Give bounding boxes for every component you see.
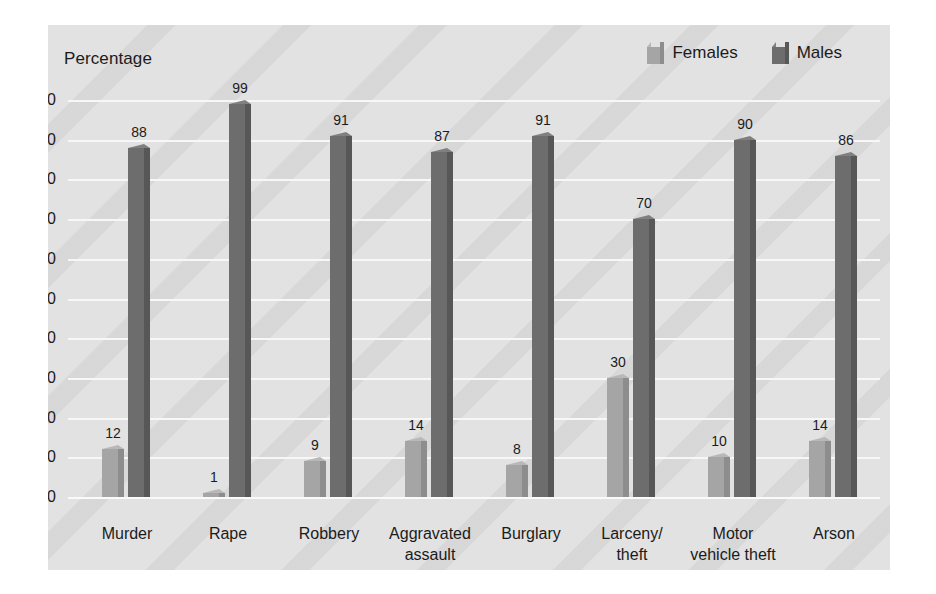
bar-value-label: 88 bbox=[119, 124, 159, 140]
bar-value-label: 14 bbox=[800, 417, 840, 433]
plot-area: 10090807060504030201001288Murder199Rape9… bbox=[48, 25, 890, 570]
bar-value-label: 30 bbox=[598, 354, 638, 370]
bar-males-0[interactable] bbox=[128, 148, 144, 497]
chart-panel: Percentage FemalesMales 1009080706050403… bbox=[48, 25, 890, 570]
gridline bbox=[68, 299, 880, 301]
bar-value-label: 90 bbox=[725, 116, 765, 132]
y-axis-tick-label: 10 bbox=[48, 448, 56, 466]
bar-females-3[interactable] bbox=[405, 441, 421, 497]
gridline bbox=[68, 457, 880, 459]
x-axis-label-7: Arson bbox=[772, 523, 890, 544]
gridline bbox=[68, 378, 880, 380]
bar-value-label: 8 bbox=[497, 441, 537, 457]
x-axis-label-line: vehicle theft bbox=[671, 544, 795, 565]
bar-females-2[interactable] bbox=[304, 461, 320, 497]
bar-value-label: 70 bbox=[624, 195, 664, 211]
y-axis-tick-label: 90 bbox=[48, 131, 56, 149]
bar-value-label: 1 bbox=[194, 469, 234, 485]
x-axis-label-line: assault bbox=[368, 544, 492, 565]
gridline bbox=[68, 219, 880, 221]
gridline bbox=[68, 140, 880, 142]
y-axis-tick-label: 20 bbox=[48, 409, 56, 427]
bar-value-label: 91 bbox=[321, 112, 361, 128]
bar-males-7[interactable] bbox=[835, 156, 851, 497]
y-axis-tick-label: 60 bbox=[48, 250, 56, 268]
bar-males-4[interactable] bbox=[532, 136, 548, 497]
y-axis-tick-label: 100 bbox=[48, 91, 56, 109]
y-axis-tick-label: 0 bbox=[48, 488, 56, 506]
bar-females-7[interactable] bbox=[809, 441, 825, 497]
bar-males-6[interactable] bbox=[734, 140, 750, 497]
bar-females-5[interactable] bbox=[607, 378, 623, 497]
bar-value-label: 99 bbox=[220, 80, 260, 96]
bar-females-4[interactable] bbox=[506, 465, 522, 497]
bar-males-1[interactable] bbox=[229, 104, 245, 497]
gridline bbox=[68, 259, 880, 261]
axis-baseline bbox=[68, 497, 880, 499]
bar-females-1[interactable] bbox=[203, 493, 219, 497]
chart-page: Percentage FemalesMales 1009080706050403… bbox=[0, 0, 936, 594]
bar-value-label: 86 bbox=[826, 132, 866, 148]
y-axis-tick-label: 50 bbox=[48, 290, 56, 308]
y-axis-tick-label: 70 bbox=[48, 210, 56, 228]
bar-females-6[interactable] bbox=[708, 457, 724, 497]
bar-value-label: 10 bbox=[699, 433, 739, 449]
y-axis-tick-label: 30 bbox=[48, 369, 56, 387]
bar-males-5[interactable] bbox=[633, 219, 649, 497]
gridline bbox=[68, 338, 880, 340]
bar-males-3[interactable] bbox=[431, 152, 447, 497]
bar-value-label: 91 bbox=[523, 112, 563, 128]
x-axis-label-line: Arson bbox=[772, 523, 890, 544]
bar-females-0[interactable] bbox=[102, 449, 118, 497]
bar-value-label: 9 bbox=[295, 437, 335, 453]
gridline bbox=[68, 100, 880, 102]
bar-males-2[interactable] bbox=[330, 136, 346, 497]
bar-value-label: 87 bbox=[422, 128, 462, 144]
y-axis-tick-label: 40 bbox=[48, 329, 56, 347]
gridline bbox=[68, 418, 880, 420]
y-axis-tick-label: 80 bbox=[48, 170, 56, 188]
bar-value-label: 12 bbox=[93, 425, 133, 441]
gridline bbox=[68, 179, 880, 181]
bar-value-label: 14 bbox=[396, 417, 436, 433]
